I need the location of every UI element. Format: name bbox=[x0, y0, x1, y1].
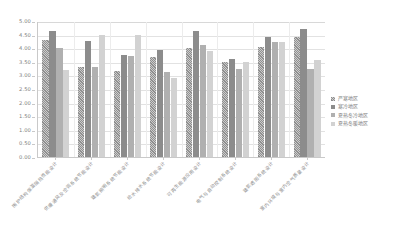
bar bbox=[243, 62, 249, 157]
x-axis-tick-mark bbox=[307, 158, 308, 160]
plot-area bbox=[37, 22, 325, 158]
bar bbox=[85, 41, 91, 157]
x-axis-label-cell: 建筑遮阳系统设计 bbox=[253, 158, 289, 232]
bar bbox=[294, 37, 300, 157]
bar bbox=[150, 57, 156, 157]
legend-swatch-icon bbox=[331, 113, 335, 117]
y-axis-tick-mark bbox=[32, 117, 35, 118]
bar bbox=[99, 35, 105, 157]
x-axis-tick-mark bbox=[91, 158, 92, 160]
bar-group bbox=[217, 22, 253, 157]
bar bbox=[63, 70, 69, 157]
y-axis-tick-mark bbox=[32, 90, 35, 91]
legend-item[interactable]: 寒冷地区 bbox=[331, 104, 368, 109]
group-separator bbox=[253, 22, 254, 157]
bar bbox=[236, 69, 242, 157]
x-axis-label-cell: 电气与自动控制系统设计 bbox=[217, 158, 253, 232]
grouped-bar-chart: 5.004.504.003.503.002.502.001.501.000.50… bbox=[0, 0, 410, 235]
y-axis-tick-mark bbox=[32, 144, 35, 145]
bar-group bbox=[253, 22, 289, 157]
y-axis-tick-label: 3.00 bbox=[19, 74, 31, 79]
bar-group bbox=[146, 22, 182, 157]
y-axis-tick-mark bbox=[32, 63, 35, 64]
y-axis-tick-label: 0.00 bbox=[19, 155, 31, 160]
y-axis-tick-label: 1.00 bbox=[19, 128, 31, 133]
y-axis-tick-mark bbox=[32, 76, 35, 77]
y-axis-tick-label: 2.00 bbox=[19, 101, 31, 106]
x-axis-label-cell: 建筑照明系统节能设计 bbox=[109, 158, 145, 232]
x-axis-tick-mark bbox=[55, 158, 56, 160]
bar bbox=[157, 50, 163, 157]
y-axis-tick-mark bbox=[32, 131, 35, 132]
group-separator bbox=[289, 22, 290, 157]
x-axis-tick-mark bbox=[271, 158, 272, 160]
bar-group bbox=[289, 22, 325, 157]
x-axis-label-cell: 围护结构保温隔热性能设计 bbox=[37, 158, 73, 232]
x-axis-tick-mark bbox=[199, 158, 200, 160]
bar bbox=[135, 35, 141, 157]
bar bbox=[42, 40, 48, 157]
bar-group bbox=[110, 22, 146, 157]
bar bbox=[128, 56, 134, 157]
y-axis-tick-mark bbox=[32, 104, 35, 105]
x-axis-label-cell: 供暖通风及空调系统节能设计 bbox=[73, 158, 109, 232]
legend-swatch-icon bbox=[331, 97, 335, 101]
bar bbox=[300, 29, 306, 157]
group-separator bbox=[182, 22, 183, 157]
group-separator bbox=[74, 22, 75, 157]
y-axis-tick-label: 2.50 bbox=[19, 87, 31, 92]
bar bbox=[56, 48, 62, 157]
bar-groups bbox=[38, 22, 325, 157]
bar bbox=[258, 47, 264, 157]
bar bbox=[265, 37, 271, 157]
bar bbox=[186, 48, 192, 157]
legend-label: 寒冷地区 bbox=[338, 104, 358, 109]
x-axis-labels: 围护结构保温隔热性能设计供暖通风及空调系统节能设计建筑照明系统节能设计给水排水系… bbox=[37, 158, 325, 232]
legend-label: 严寒地区 bbox=[338, 96, 358, 101]
legend-swatch-icon bbox=[331, 122, 335, 126]
legend-item[interactable]: 夏热冬冷地区 bbox=[331, 113, 368, 118]
group-separator bbox=[146, 22, 147, 157]
group-separator bbox=[217, 22, 218, 157]
bar bbox=[207, 51, 213, 157]
bar bbox=[200, 45, 206, 157]
bar-group bbox=[38, 22, 74, 157]
y-axis-tick-mark bbox=[32, 158, 35, 159]
bar bbox=[272, 42, 278, 157]
bar bbox=[193, 31, 199, 157]
y-axis-tick-label: 0.50 bbox=[19, 142, 31, 147]
bar bbox=[92, 67, 98, 157]
y-axis-tick-mark bbox=[32, 22, 35, 23]
legend-swatch-icon bbox=[331, 105, 335, 109]
legend-label: 夏热冬暖地区 bbox=[338, 121, 369, 126]
bar-group bbox=[74, 22, 110, 157]
bar bbox=[49, 31, 55, 157]
bar bbox=[171, 78, 177, 157]
y-axis-tick-mark bbox=[32, 49, 35, 50]
bar bbox=[314, 60, 320, 157]
bar bbox=[78, 67, 84, 157]
bar bbox=[164, 72, 170, 157]
bar bbox=[222, 62, 228, 157]
y-axis: 5.004.504.003.503.002.502.001.501.000.50… bbox=[0, 22, 35, 158]
x-axis-label-cell: 给水排水系统节能设计 bbox=[145, 158, 181, 232]
bar bbox=[307, 69, 313, 157]
y-axis-tick-mark bbox=[32, 36, 35, 37]
bar bbox=[229, 59, 235, 157]
y-axis-tick-label: 3.50 bbox=[19, 60, 31, 65]
bar bbox=[279, 42, 285, 157]
y-axis-tick-label: 4.50 bbox=[19, 33, 31, 38]
y-axis-tick-label: 4.00 bbox=[19, 47, 31, 52]
y-axis-tick-label: 5.00 bbox=[19, 19, 31, 24]
legend-item[interactable]: 严寒地区 bbox=[331, 96, 368, 101]
x-axis-label-cell: 室内环境与室内空气质量设计 bbox=[289, 158, 325, 232]
group-separator bbox=[110, 22, 111, 157]
legend-label: 夏热冬冷地区 bbox=[338, 113, 369, 118]
y-axis-tick-label: 1.50 bbox=[19, 115, 31, 120]
bar bbox=[114, 71, 120, 158]
legend-item[interactable]: 夏热冬暖地区 bbox=[331, 121, 368, 126]
bar bbox=[121, 55, 127, 157]
chart-legend: 严寒地区寒冷地区夏热冬冷地区夏热冬暖地区 bbox=[331, 96, 368, 126]
bar-group bbox=[182, 22, 218, 157]
x-axis-label-cell: 可再生能源应用设计 bbox=[181, 158, 217, 232]
